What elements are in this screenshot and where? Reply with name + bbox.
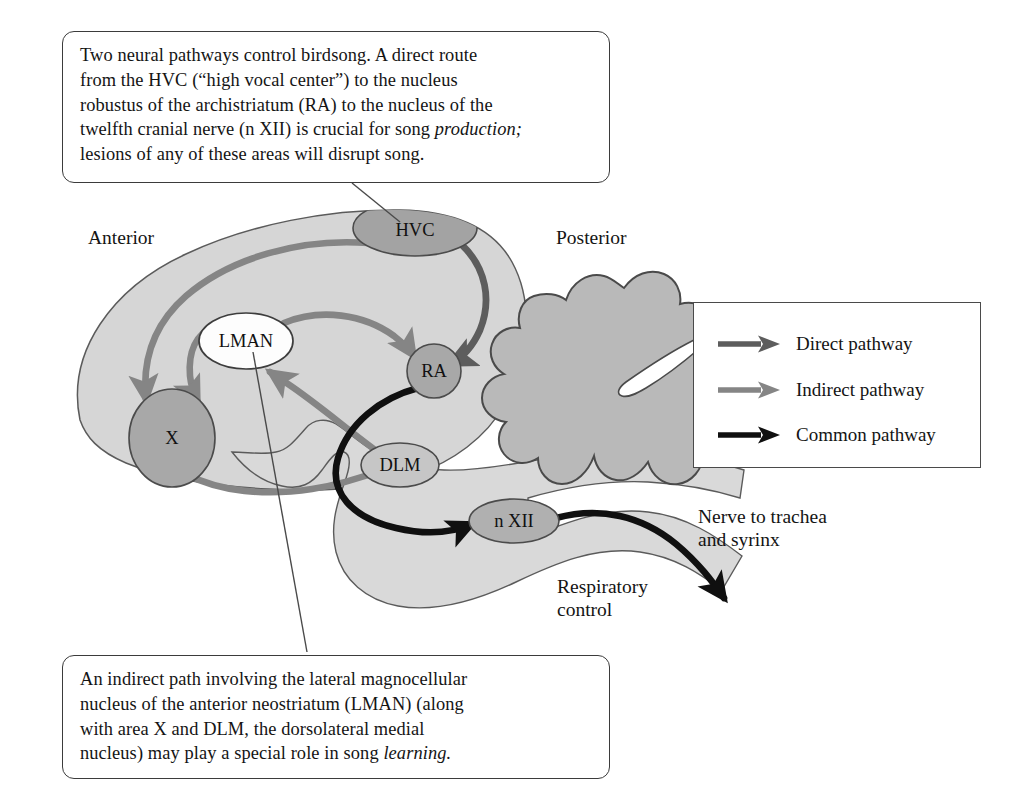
nucleus-x — [129, 389, 215, 487]
legend-label-common: Common pathway — [796, 424, 936, 446]
nucleus-ra — [407, 344, 461, 398]
caption-top-line-1: Two neural pathways control birdsong. A … — [80, 43, 593, 68]
nucleus-lman — [199, 313, 293, 369]
caption-bottom-line-1: An indirect path involving the lateral m… — [80, 667, 593, 692]
legend-row-direct: Direct pathway — [716, 331, 913, 357]
legend-label-direct: Direct pathway — [796, 333, 913, 355]
respiratory-control-line1: Respiratory — [557, 575, 648, 598]
caption-top-line-2: from the HVC (“high vocal center”) to th… — [80, 68, 593, 93]
caption-top-line-4: twelfth cranial nerve (n XII) is crucial… — [80, 117, 593, 142]
caption-bottom-line-4-text: nucleus) may play a special role in song — [80, 743, 383, 763]
caption-top-italic: production; — [435, 119, 522, 139]
caption-bottom: An indirect path involving the lateral m… — [62, 655, 610, 779]
figure-page: HVC RA LMAN X DLM n XII Anterior Posteri… — [0, 0, 1028, 803]
arrow-right-icon — [716, 333, 782, 355]
legend-label-indirect: Indirect pathway — [796, 379, 924, 401]
nerve-label-line2: and syrinx — [698, 528, 827, 551]
legend-row-common: Common pathway — [716, 422, 936, 448]
caption-bottom-line-2: nucleus of the anterior neostriatum (LMA… — [80, 692, 593, 717]
nerve-to-syrinx-label: Nerve to trachea and syrinx — [698, 505, 827, 552]
legend-row-indirect: Indirect pathway — [716, 377, 924, 403]
legend-box: Direct pathway Indirect pathway Common p… — [693, 302, 981, 468]
arrow-right-icon — [716, 379, 782, 401]
caption-bottom-line-4: nucleus) may play a special role in song… — [80, 741, 593, 766]
orientation-label-posterior: Posterior — [556, 226, 626, 249]
caption-bottom-italic: learning. — [383, 743, 451, 763]
nucleus-nxii — [469, 499, 559, 543]
caption-top-line-3: robustus of the archistriatum (RA) to th… — [80, 93, 593, 118]
respiratory-control-label: Respiratory control — [557, 575, 648, 622]
nucleus-hvc — [353, 200, 477, 256]
nerve-label-line1: Nerve to trachea — [698, 505, 827, 528]
caption-bottom-line-3: with area X and DLM, the dorsolateral me… — [80, 717, 593, 742]
respiratory-control-line2: control — [557, 598, 648, 621]
caption-top: Two neural pathways control birdsong. A … — [62, 31, 610, 183]
nucleus-dlm — [361, 443, 439, 487]
caption-top-line-5: lesions of any of these areas will disru… — [80, 142, 593, 167]
orientation-label-anterior: Anterior — [88, 226, 154, 249]
caption-top-line-4-text: twelfth cranial nerve (n XII) is crucial… — [80, 119, 435, 139]
arrow-right-icon — [716, 424, 782, 446]
